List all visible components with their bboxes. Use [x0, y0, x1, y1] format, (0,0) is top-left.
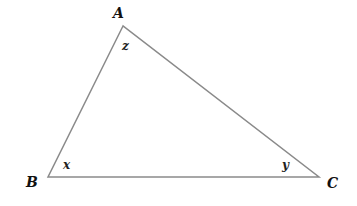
vertex-label-b: B [25, 174, 38, 190]
vertex-label-a: A [111, 5, 124, 21]
angle-label-z: z [121, 39, 130, 53]
angle-label-x: x [62, 158, 71, 172]
triangle-abc [48, 26, 319, 177]
triangle-diagram: A B C z x y [0, 0, 357, 206]
angle-label-y: y [281, 158, 290, 172]
vertex-label-c: C [327, 175, 338, 191]
